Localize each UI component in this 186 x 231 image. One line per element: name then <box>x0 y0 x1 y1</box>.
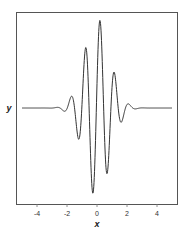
x-tick-label: 4 <box>155 210 159 217</box>
y-axis-label: y <box>5 103 12 113</box>
x-tick-label: 2 <box>125 210 129 217</box>
x-axis-label: x <box>93 219 100 229</box>
chart: -4-2024 y x <box>0 0 186 231</box>
x-tick-label: 0 <box>95 210 99 217</box>
x-tick-label: -4 <box>34 210 40 217</box>
data-line <box>22 20 172 193</box>
x-tick-label: -2 <box>64 210 70 217</box>
x-axis-ticks: -4-2024 <box>34 204 159 217</box>
